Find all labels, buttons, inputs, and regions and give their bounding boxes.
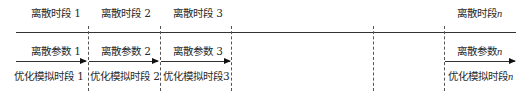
sim-label-n-index: n [508,71,513,82]
period-arrow-2 [89,61,158,62]
period-label-n: 离散时段n [457,7,502,20]
period-divider-4 [373,26,374,91]
period-label-2: 离散时段 2 [101,7,151,19]
period-label-n-index: n [497,8,502,19]
period-divider-3 [231,26,232,91]
period-divider-2 [160,26,161,91]
param-label-n: 离散参数n [457,45,502,58]
period-arrow-1 [16,61,86,62]
sim-label-2: 优化模拟时段 2 [90,70,160,82]
period-divider-5 [444,26,445,91]
param-label-2: 离散参数 2 [101,45,151,57]
sim-label-n: 优化模拟时段n [448,70,513,83]
discrete-period-diagram: 离散时段 1 离散时段 2 离散时段 3 离散时段n 离散参数 1 离散参数 2… [0,0,527,91]
period-label-3: 离散时段 3 [173,7,223,19]
sim-label-1: 优化模拟时段 1 [14,70,84,82]
param-label-n-index: n [497,46,502,57]
period-label-n-prefix: 离散时段 [457,7,497,19]
param-label-3: 离散参数 3 [173,45,223,57]
period-label-1: 离散时段 1 [31,7,81,19]
param-label-1: 离散参数 1 [31,45,81,57]
timeline-axis [16,32,516,33]
param-label-n-prefix: 离散参数 [457,45,497,57]
sim-label-3: 优化模拟时段3 [163,70,230,82]
period-arrow-3 [161,61,230,62]
period-arrow-n [445,61,515,62]
period-divider-1 [88,26,89,91]
sim-label-n-prefix: 优化模拟时段 [448,70,508,82]
